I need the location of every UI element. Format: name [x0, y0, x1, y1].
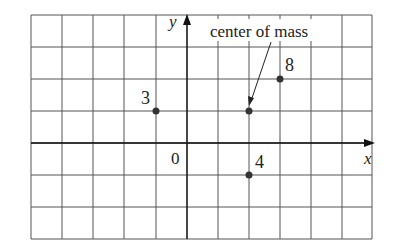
mass-label-8: 8 — [285, 55, 294, 75]
x-axis-label: x — [363, 149, 372, 168]
mass-point-4 — [246, 172, 253, 179]
origin-label: 0 — [171, 149, 180, 168]
y-axis-label: y — [167, 12, 177, 31]
center-of-mass-label: center of mass — [210, 22, 308, 41]
center-of-mass-diagram: x y 0 3 8 4 center of mass — [0, 0, 395, 247]
mass-point-8 — [277, 76, 284, 83]
mass-label-3: 3 — [141, 88, 150, 108]
mass-label-4: 4 — [255, 152, 264, 172]
mass-point-3 — [153, 108, 160, 115]
center-of-mass-point — [246, 108, 253, 115]
